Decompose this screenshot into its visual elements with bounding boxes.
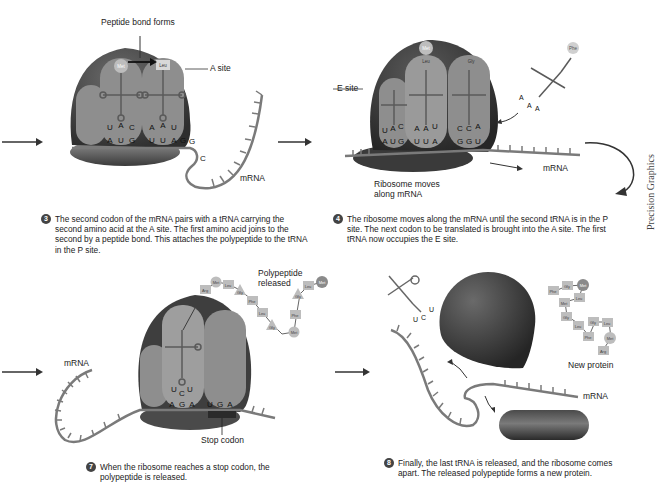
svg-text:G: G bbox=[179, 400, 185, 409]
svg-text:Leu: Leu bbox=[576, 296, 583, 301]
svg-text:Leu: Leu bbox=[259, 311, 266, 316]
svg-text:G: G bbox=[466, 137, 472, 146]
svg-text:A: A bbox=[382, 137, 388, 146]
svg-text:U: U bbox=[432, 122, 438, 131]
svg-text:A: A bbox=[118, 121, 124, 130]
step-number-badge: 7 bbox=[86, 462, 96, 472]
svg-text:G: G bbox=[180, 136, 186, 145]
svg-text:Gly: Gly bbox=[468, 59, 476, 64]
stop-codon-marker bbox=[208, 411, 236, 418]
svg-text:Gly: Gly bbox=[237, 290, 243, 295]
caption-step-3: 3 The second codon of the mRNA pairs wit… bbox=[41, 214, 311, 255]
svg-text:Leu: Leu bbox=[225, 283, 232, 288]
svg-text:Arg: Arg bbox=[600, 349, 606, 354]
illustration-credit: Precision Graphics bbox=[645, 154, 656, 230]
svg-text:U: U bbox=[382, 126, 388, 135]
svg-text:U: U bbox=[160, 136, 166, 145]
svg-text:A: A bbox=[171, 136, 177, 145]
label-new-protein: New protein bbox=[568, 361, 613, 371]
svg-text:C: C bbox=[466, 124, 472, 133]
svg-text:Met: Met bbox=[580, 283, 588, 288]
svg-text:Leu: Leu bbox=[604, 321, 611, 326]
svg-text:A: A bbox=[527, 102, 532, 109]
svg-text:G: G bbox=[457, 137, 463, 146]
svg-text:Met: Met bbox=[213, 280, 221, 285]
svg-text:G: G bbox=[189, 137, 195, 146]
svg-text:Leu: Leu bbox=[575, 324, 582, 329]
svg-text:A: A bbox=[169, 400, 175, 409]
svg-text:Met: Met bbox=[561, 301, 569, 306]
new-protein-cluster: PheGly MetMet LeuGly GlyLeu LeuPhe MetAr… bbox=[548, 279, 616, 355]
svg-text:A: A bbox=[414, 124, 420, 133]
svg-text:C: C bbox=[200, 154, 206, 163]
panel-step-7: U C U AGA UGA bbox=[0, 250, 333, 498]
svg-text:U: U bbox=[171, 385, 177, 394]
flow-arrow-out bbox=[278, 138, 312, 146]
panel-step-3: Met Leu U A C A A U A U G U U A G G C bbox=[0, 0, 333, 250]
svg-text:Phe: Phe bbox=[248, 299, 256, 304]
step-number-badge: 3 bbox=[41, 214, 51, 224]
svg-text:A: A bbox=[423, 124, 429, 133]
caption-text: The ribosome moves along the mRNA until … bbox=[347, 214, 609, 245]
label-mrna: mRNA bbox=[583, 392, 608, 402]
svg-text:U: U bbox=[107, 123, 113, 132]
svg-text:U: U bbox=[149, 136, 155, 145]
large-subunit-detached bbox=[439, 272, 535, 368]
svg-text:U: U bbox=[207, 400, 213, 409]
svg-text:Gly: Gly bbox=[590, 320, 596, 325]
caption-text: When the ribosome reaches a stop codon, … bbox=[100, 462, 296, 482]
svg-text:Phe: Phe bbox=[569, 46, 578, 51]
svg-text:C: C bbox=[179, 389, 185, 398]
step-3-illustration: Met Leu U A C A A U A U G U U A G G C bbox=[0, 0, 333, 200]
svg-text:Leu: Leu bbox=[422, 59, 430, 64]
step-number-badge: 4 bbox=[333, 214, 343, 224]
label-polypeptide-released: Polypeptide released bbox=[258, 269, 318, 289]
svg-text:G: G bbox=[398, 137, 404, 146]
svg-text:G: G bbox=[217, 400, 223, 409]
flow-arrow-in bbox=[335, 368, 370, 376]
caption-step-7: 7 When the ribosome reaches a stop codon… bbox=[86, 462, 296, 482]
released-trna bbox=[388, 276, 421, 312]
svg-text:U: U bbox=[414, 137, 420, 146]
panel-step-8: U C U PheGly MetMe bbox=[333, 250, 666, 498]
label-ribosome-moves: Ribosome moves along mRNA bbox=[374, 180, 444, 200]
svg-text:U: U bbox=[390, 137, 396, 146]
svg-text:A: A bbox=[432, 137, 438, 146]
label-mrna: mRNA bbox=[64, 359, 89, 369]
flow-arrow-in bbox=[2, 368, 43, 376]
label-a-site: A site bbox=[210, 64, 231, 74]
incoming-anticodon: A A A bbox=[519, 94, 540, 112]
svg-text:U: U bbox=[118, 136, 124, 145]
incoming-trna bbox=[531, 58, 571, 97]
a-site-region bbox=[204, 310, 246, 408]
flow-arrow-curved bbox=[585, 143, 634, 192]
svg-text:Gly: Gly bbox=[295, 294, 301, 299]
svg-text:A: A bbox=[189, 400, 195, 409]
svg-text:A: A bbox=[107, 136, 113, 145]
label-mrna: mRNA bbox=[543, 164, 568, 174]
codon-letters: AUG UUA GGU bbox=[382, 137, 481, 146]
svg-text:Met: Met bbox=[422, 46, 430, 51]
svg-text:Gly: Gly bbox=[269, 325, 275, 330]
label-stop-codon: Stop codon bbox=[201, 436, 244, 446]
svg-text:U: U bbox=[475, 137, 481, 146]
label-e-site: E site bbox=[337, 84, 358, 94]
caption-text: Finally, the last tRNA is released, and … bbox=[398, 458, 616, 478]
svg-text:U: U bbox=[413, 316, 418, 323]
svg-text:Met: Met bbox=[291, 330, 299, 335]
svg-text:C: C bbox=[398, 122, 404, 131]
separation-arrow-up bbox=[451, 362, 467, 378]
step-number-badge: 8 bbox=[384, 458, 394, 468]
svg-text:U: U bbox=[171, 123, 177, 132]
svg-text:U: U bbox=[429, 306, 434, 313]
flow-arrow-in bbox=[2, 138, 43, 146]
svg-text:C: C bbox=[129, 123, 135, 132]
svg-text:Gly: Gly bbox=[564, 284, 570, 289]
svg-text:C: C bbox=[421, 314, 426, 321]
svg-text:A: A bbox=[160, 121, 166, 130]
svg-text:A: A bbox=[535, 105, 540, 112]
svg-text:U: U bbox=[187, 385, 193, 394]
step-4-illustration: Met Leu Gly UAC AAU CCA AUG UUA GGU Phe … bbox=[333, 0, 666, 200]
svg-text:A: A bbox=[227, 400, 233, 409]
svg-text:G: G bbox=[129, 136, 135, 145]
